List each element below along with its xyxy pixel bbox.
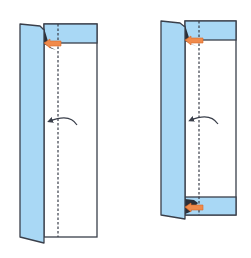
top-fold-band [185, 21, 236, 40]
folding-diagram [0, 0, 251, 258]
step-b-figure [161, 21, 236, 219]
left-flap [20, 24, 44, 243]
left-flap [161, 21, 185, 219]
step-a-figure [20, 24, 97, 243]
top-fold-band [44, 24, 97, 43]
paper-body [44, 24, 97, 237]
diagram-canvas [0, 0, 251, 258]
